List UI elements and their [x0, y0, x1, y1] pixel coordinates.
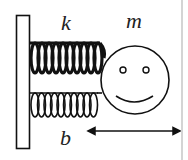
mass-circle	[101, 46, 169, 114]
diagram-canvas: k m b	[0, 0, 188, 160]
wall	[17, 16, 30, 149]
displacement-arrow	[88, 128, 180, 135]
damping-label: b	[60, 127, 71, 149]
mass-label: m	[126, 10, 142, 32]
spring-bottom	[30, 93, 102, 117]
right-edge-divider	[181, 0, 183, 160]
spring-top	[30, 43, 105, 73]
spring-constant-label: k	[61, 12, 71, 34]
